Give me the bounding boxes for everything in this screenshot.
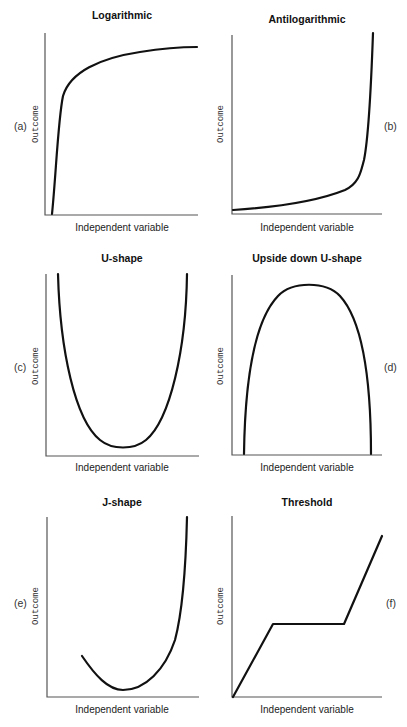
panel-a-axes bbox=[45, 33, 198, 215]
panel-d-ylabel: Outcome bbox=[216, 347, 226, 385]
panel-e-j-shape: J-shape Independent variable Outcome (e) bbox=[14, 496, 199, 715]
panel-f-curve bbox=[233, 536, 382, 697]
panel-d-curve bbox=[244, 285, 371, 454]
panel-f-title: Threshold bbox=[282, 496, 333, 508]
figure-canvas: Logarithmic Independent variable Outcome… bbox=[0, 0, 407, 727]
panel-a-ylabel: Outcome bbox=[31, 105, 41, 143]
panel-c-title: U-shape bbox=[101, 252, 143, 264]
panel-d-tag: (d) bbox=[384, 361, 397, 373]
panel-b-title: Antilogarithmic bbox=[268, 13, 345, 25]
panel-c-axes bbox=[46, 274, 199, 456]
panel-b-axes bbox=[232, 35, 382, 214]
panel-f-axes bbox=[232, 516, 382, 697]
panel-c-tag: (c) bbox=[14, 361, 26, 373]
panel-b-xlabel: Independent variable bbox=[260, 222, 354, 233]
panel-a-tag: (a) bbox=[14, 120, 27, 132]
panel-f-xlabel: Independent variable bbox=[260, 704, 354, 715]
panel-b-tag: (b) bbox=[384, 120, 397, 132]
panel-b-ylabel: Outcome bbox=[216, 105, 226, 143]
panel-f-ylabel: Outcome bbox=[216, 587, 226, 625]
panel-b-antilogarithmic: Antilogarithmic Independent variable Out… bbox=[216, 13, 397, 233]
panel-c-ylabel: Outcome bbox=[31, 347, 41, 385]
panel-b-curve bbox=[233, 33, 373, 210]
panel-e-axes bbox=[47, 517, 199, 697]
panel-c-u-shape: U-shape Independent variable Outcome (c) bbox=[14, 252, 199, 473]
panel-e-tag: (e) bbox=[14, 597, 27, 609]
panel-e-xlabel: Independent variable bbox=[75, 704, 169, 715]
panel-d-axes bbox=[232, 275, 382, 455]
panel-a-logarithmic: Logarithmic Independent variable Outcome… bbox=[14, 9, 198, 233]
panel-e-curve bbox=[82, 517, 187, 690]
panel-d-upside-down-u-shape: Upside down U-shape Independent variable… bbox=[216, 252, 397, 473]
panel-f-threshold: Threshold Independent variable Outcome (… bbox=[216, 496, 396, 715]
panel-a-curve bbox=[52, 47, 197, 214]
panel-c-xlabel: Independent variable bbox=[75, 462, 169, 473]
panel-e-title: J-shape bbox=[102, 496, 142, 508]
panel-d-xlabel: Independent variable bbox=[260, 462, 354, 473]
panel-d-title: Upside down U-shape bbox=[252, 252, 362, 264]
panel-a-xlabel: Independent variable bbox=[75, 222, 169, 233]
panel-c-curve bbox=[58, 274, 187, 448]
panel-e-ylabel: Outcome bbox=[31, 587, 41, 625]
panel-f-tag: (f) bbox=[386, 597, 396, 609]
panel-a-title: Logarithmic bbox=[92, 9, 152, 21]
